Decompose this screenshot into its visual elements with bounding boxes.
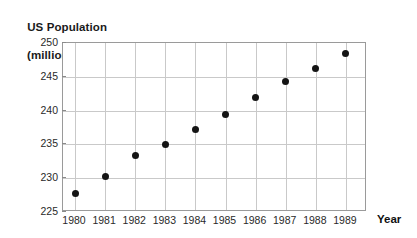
- gridline-vertical: [165, 43, 166, 210]
- data-point: [102, 173, 109, 180]
- data-point: [282, 78, 289, 85]
- us-population-scatter-chart: US Population (millions) 250245240235230…: [0, 0, 417, 238]
- y-axis-tick-label: 240: [18, 105, 58, 116]
- chart-title-line1: US Population: [27, 21, 107, 33]
- y-axis-tick-mark: [62, 177, 66, 178]
- data-point: [222, 111, 229, 118]
- data-point: [252, 94, 259, 101]
- data-point: [342, 50, 349, 57]
- gridline-vertical: [346, 43, 347, 210]
- data-point: [312, 65, 319, 72]
- data-point: [72, 190, 79, 197]
- data-point: [162, 141, 169, 148]
- y-axis-tick-mark: [62, 76, 66, 77]
- data-point: [132, 152, 139, 159]
- y-axis-tick-mark: [62, 143, 66, 144]
- x-axis-label: Year: [377, 213, 401, 226]
- y-axis-tick-labels: 250245240235230225: [14, 42, 58, 211]
- gridline-vertical: [105, 43, 106, 210]
- gridline-horizontal: [63, 111, 365, 112]
- y-axis-tick-label: 230: [18, 172, 58, 183]
- gridline-vertical: [286, 43, 287, 210]
- y-axis-tick-mark: [62, 42, 66, 43]
- plot-area: [62, 42, 366, 211]
- gridline-horizontal: [63, 77, 365, 78]
- y-axis-tick-label: 245: [18, 71, 58, 82]
- gridline-horizontal: [63, 144, 365, 145]
- gridline-vertical: [135, 43, 136, 210]
- y-axis-tick-label: 250: [18, 37, 58, 48]
- y-axis-tick-mark: [62, 211, 66, 212]
- y-axis-tick-mark: [62, 110, 66, 111]
- gridline-vertical: [226, 43, 227, 210]
- gridline-vertical: [256, 43, 257, 210]
- data-point: [192, 126, 199, 133]
- x-axis-tick-label: 1989: [320, 214, 370, 226]
- gridline-vertical: [75, 43, 76, 210]
- y-axis-tick-label: 235: [18, 138, 58, 149]
